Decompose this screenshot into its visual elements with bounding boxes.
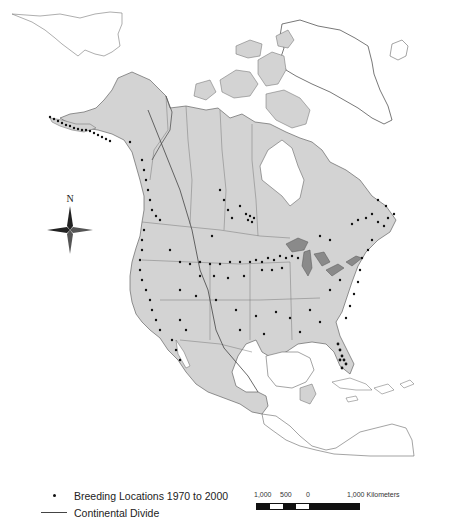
scale-bar-graphic [256,503,360,510]
scale-label-500: 500 [280,491,292,498]
scale-bar: 1,000 500 0 1,000 Kilometers [256,491,371,510]
scale-label-1000-km: 1,000 Kilometers [347,491,400,498]
central-america [262,414,414,456]
russia-chukotka [12,12,122,56]
north-label: N [66,193,73,204]
gulf-of-mexico [266,352,314,388]
legend-label-breeding: Breeding Locations 1970 to 2000 [74,490,228,502]
legend-item-divide: Continental Divide [40,504,228,521]
caribbean-islands [332,378,414,402]
map-legend: Breeding Locations 1970 to 2000 Continen… [40,487,228,521]
dot-symbol-icon [40,494,68,497]
line-symbol-icon [40,512,68,513]
scale-label-0: 0 [306,491,310,498]
yucatan [300,384,316,404]
legend-item-breeding: Breeding Locations 1970 to 2000 [40,487,228,504]
legend-label-divide: Continental Divide [74,507,159,519]
scale-label-1000-left: 1,000 [254,491,272,498]
iceland [390,40,408,60]
north-arrow-compass: N [45,190,95,260]
